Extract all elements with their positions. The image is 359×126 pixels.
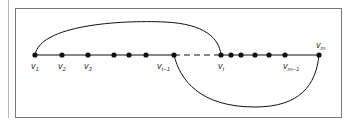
label-v2: v2 [58,61,67,72]
vertex-vt [218,52,223,57]
path-diagram: v1 v2 v3 vt−1 vt vm−1 vm [0,0,359,126]
vertex [143,52,148,57]
label-vt: vt [218,61,225,72]
label-v1: v1 [31,61,39,72]
vertex-v2 [59,52,64,57]
vertex [111,52,116,57]
vertex-v1 [32,52,37,57]
vertex-v3 [85,52,90,57]
arc-vt1-vm [174,55,319,107]
vertex [126,52,131,57]
label-v3: v3 [84,61,93,72]
arc-v1-vt [35,22,221,55]
vertex [228,52,233,57]
label-vm: vm [316,40,326,51]
vertex-vm [316,52,321,57]
vertex [266,52,271,57]
vertex [252,52,257,57]
label-vm-1: vm−1 [283,61,299,72]
label-vt-1: vt−1 [157,61,170,72]
vertex [238,52,243,57]
vertex-vt-1 [171,52,176,57]
vertex-vm-1 [282,52,287,57]
